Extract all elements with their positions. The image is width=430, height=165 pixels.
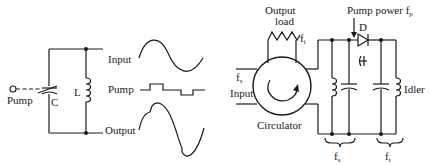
output-load-freq: fi bbox=[300, 32, 306, 46]
junction-capacitance-icon bbox=[359, 56, 367, 66]
pump-input-label: Pump bbox=[7, 94, 33, 106]
signal-tank-freq: fs bbox=[334, 150, 341, 164]
terminal-icon bbox=[10, 86, 16, 92]
circulation-arrow-icon bbox=[293, 84, 299, 92]
circulator bbox=[253, 57, 311, 115]
diode-icon bbox=[358, 34, 368, 46]
variable-capacitor-icon bbox=[38, 86, 57, 94]
pump-power-label: Pump power fp bbox=[347, 4, 413, 18]
output-waveform bbox=[139, 103, 204, 156]
circulator-label: Circulator bbox=[257, 119, 302, 131]
junction-dot bbox=[84, 47, 88, 51]
idler-tank-freq: fi bbox=[385, 150, 391, 164]
pump-waveform bbox=[140, 84, 205, 95]
inductor-icon bbox=[86, 78, 91, 104]
output-waveform-label: Output bbox=[105, 124, 136, 136]
junction-dot bbox=[84, 131, 88, 135]
signal-tank-brace bbox=[325, 138, 355, 147]
idler-label: Idler bbox=[404, 83, 425, 95]
parametric-amplifier-diagram: C Pump L Input Pump Output Output load f… bbox=[0, 0, 430, 165]
capacitor-label: C bbox=[51, 96, 58, 108]
input-waveform-label: Input bbox=[108, 53, 131, 65]
input-waveform bbox=[139, 40, 203, 71]
inductor-label: L bbox=[74, 86, 81, 98]
pump-waveform-label: Pump bbox=[108, 83, 134, 95]
pump-arrow-icon bbox=[351, 32, 357, 38]
diode-label: D bbox=[359, 21, 367, 33]
pump-terminal bbox=[10, 86, 40, 92]
circulator-input-label: Input bbox=[230, 87, 253, 99]
output-load-label-line2: load bbox=[275, 15, 294, 27]
input-freq: fs bbox=[236, 71, 243, 85]
idler-tank-brace bbox=[377, 138, 403, 147]
